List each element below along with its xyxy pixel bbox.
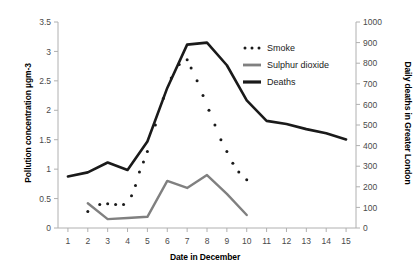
y-axis-left-tick-label: 3.5 — [39, 17, 51, 27]
y-axis-right-tick-label: 1000 — [363, 17, 382, 27]
x-axis-tick-label: 12 — [282, 236, 292, 246]
y-axis-left-tick-label: 2.5 — [39, 76, 51, 86]
smoke-data-point — [134, 184, 137, 187]
y-axis-left-tick-label: 0.5 — [39, 194, 51, 204]
smoke-data-point — [146, 150, 149, 153]
x-axis-tick-label: 11 — [262, 236, 271, 246]
legend-label: Sulphur dioxide — [267, 60, 329, 70]
smoke-data-point — [245, 178, 248, 181]
x-axis-tick-label: 8 — [205, 236, 210, 246]
smoke-data-point — [86, 210, 89, 213]
x-axis-tick-label: 1 — [66, 236, 71, 246]
y-axis-right-tick-label: 500 — [363, 120, 377, 130]
smoke-data-point — [225, 150, 228, 153]
smoke-data-point — [114, 203, 117, 206]
x-axis-tick-label: 5 — [145, 236, 150, 246]
x-axis-tick-label: 6 — [165, 236, 170, 246]
sulphur-dioxide-line — [88, 175, 247, 219]
legend-item: Sulphur dioxide — [243, 60, 329, 70]
smoke-data-point — [186, 58, 189, 61]
y-axis-right-tick-label: 0 — [363, 223, 368, 233]
x-axis-tick-label: 4 — [125, 236, 130, 246]
legend-layer: SmokeSulphur dioxideDeaths — [243, 43, 329, 87]
smoke-data-point — [213, 124, 216, 127]
x-axis-tick-label: 13 — [302, 236, 312, 246]
smoke-data-point — [138, 171, 141, 174]
legend-item: Smoke — [244, 43, 296, 53]
y-axis-left-tick-label: 0 — [46, 223, 51, 233]
y-axis-left-tick-label: 2 — [46, 105, 51, 115]
legend-label: Deaths — [267, 77, 296, 87]
smoke-data-point — [122, 203, 125, 206]
smoke-data-point — [207, 109, 210, 112]
smoke-data-point — [190, 66, 193, 69]
smoke-data-point — [219, 138, 222, 141]
y-axis-right-tick-label: 600 — [363, 100, 377, 110]
smoke-data-point — [231, 162, 234, 165]
x-axis-tick-label: 2 — [85, 236, 90, 246]
y-axis-left-tick-label: 3 — [46, 47, 51, 57]
legend-dotted-swatch — [251, 47, 254, 50]
smoke-data-point — [98, 203, 101, 206]
x-axis-tick-label: 3 — [105, 236, 110, 246]
y-axis-right-tick-label: 200 — [363, 182, 377, 192]
smoke-data-point — [202, 94, 205, 97]
y-axis-right-tick-label: 700 — [363, 79, 377, 89]
x-axis-tick-label: 7 — [185, 236, 190, 246]
x-axis-tick-label: 9 — [224, 236, 229, 246]
smoke-data-point — [196, 79, 199, 82]
axis-layer: 00.511.522.533.5010020030040050060070080… — [39, 17, 382, 246]
y-axis-right-tick-label: 100 — [363, 203, 377, 213]
legend-item: Deaths — [243, 77, 296, 87]
y-axis-left-tick-label: 1.5 — [39, 135, 51, 145]
smoke-data-point — [142, 161, 145, 164]
smoke-data-point — [130, 194, 133, 197]
x-axis-tick-label: 10 — [242, 236, 252, 246]
legend-dotted-swatch — [258, 47, 261, 50]
y-axis-right-tick-label: 300 — [363, 161, 377, 171]
y-axis-right-tick-label: 400 — [363, 141, 377, 151]
smoke-data-point — [106, 202, 109, 205]
y-axis-right-tick-label: 800 — [363, 58, 377, 68]
y-axis-right-tick-label: 900 — [363, 38, 377, 48]
legend-label: Smoke — [267, 43, 295, 53]
legend-dotted-swatch — [244, 47, 247, 50]
y-axis-left-tick-label: 1 — [46, 164, 51, 174]
x-axis-tick-label: 15 — [341, 236, 351, 246]
smoke-data-point — [237, 171, 240, 174]
x-axis-tick-label: 14 — [321, 236, 331, 246]
